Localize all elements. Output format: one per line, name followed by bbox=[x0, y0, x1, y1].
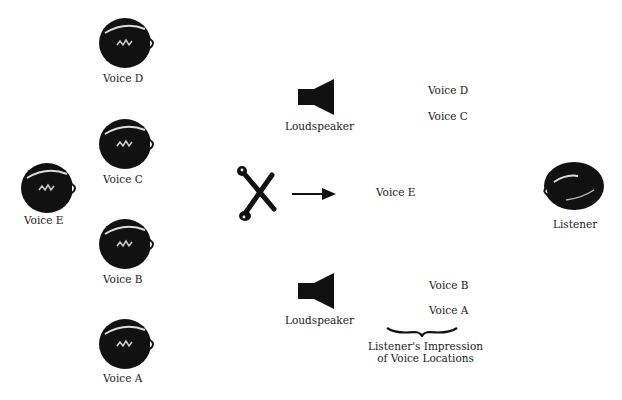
voice-b-label: Voice B bbox=[103, 273, 142, 285]
right-arrow-icon bbox=[292, 186, 336, 205]
voice-b-head-icon bbox=[97, 216, 157, 272]
perceived-voice-d: Voice D bbox=[428, 84, 468, 96]
perceived-voice-c: Voice C bbox=[428, 110, 468, 122]
voice-d-head-icon bbox=[97, 15, 157, 71]
voice-a-head-icon bbox=[97, 316, 157, 372]
top-loudspeaker-icon bbox=[298, 78, 336, 120]
perceived-voice-a: Voice A bbox=[429, 304, 468, 316]
perceived-voice-b: Voice B bbox=[429, 279, 468, 291]
brace-caption-line1: Listener's Impression bbox=[368, 340, 483, 352]
voice-c-label: Voice C bbox=[103, 173, 143, 185]
voice-d-label: Voice D bbox=[103, 72, 143, 84]
crossed-microphones-icon bbox=[236, 165, 280, 227]
brace-caption-line2: of Voice Locations bbox=[368, 352, 483, 364]
voice-e-label: Voice E bbox=[24, 214, 63, 226]
listener-head-icon bbox=[542, 160, 606, 214]
listener-label: Listener bbox=[553, 218, 597, 230]
top-loudspeaker-label: Loudspeaker bbox=[285, 120, 354, 132]
voice-a-label: Voice A bbox=[103, 372, 142, 384]
voice-e-head-icon bbox=[19, 160, 79, 216]
perceived-voice-e: Voice E bbox=[376, 186, 415, 198]
voice-c-head-icon bbox=[97, 116, 157, 172]
bottom-loudspeaker-label: Loudspeaker bbox=[285, 314, 354, 326]
bottom-loudspeaker-icon bbox=[298, 272, 336, 314]
curly-brace-icon bbox=[386, 322, 458, 341]
brace-caption: Listener's Impression of Voice Locations bbox=[368, 340, 483, 364]
